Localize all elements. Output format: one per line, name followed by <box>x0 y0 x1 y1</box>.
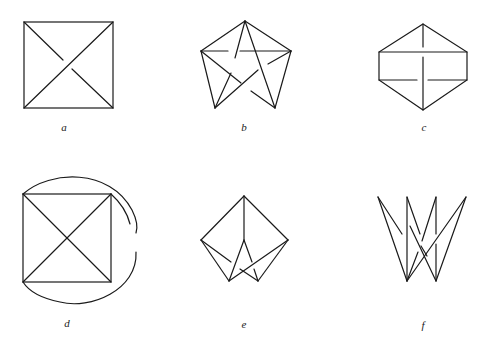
figure-label-d: d <box>64 317 70 329</box>
figure-d-drawing <box>23 177 137 304</box>
figure-label-c: c <box>422 121 427 133</box>
figure-label-b: b <box>241 121 247 133</box>
figure-a-drawing <box>24 22 113 108</box>
figure-canvas <box>0 0 491 347</box>
figure-label-e: e <box>242 318 247 330</box>
figure-f-drawing <box>378 197 466 281</box>
figure-c-drawing <box>379 24 467 110</box>
figure-label-f: f <box>421 319 424 331</box>
figure-e-drawing <box>201 196 288 281</box>
figure-label-a: a <box>61 121 67 133</box>
figure-b-drawing <box>201 21 291 108</box>
